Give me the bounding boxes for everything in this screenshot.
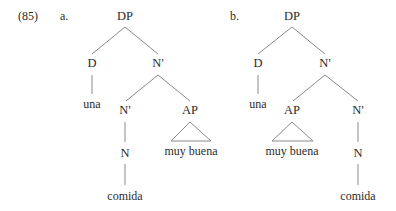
tree-a-label: a.: [60, 9, 68, 23]
tree-a-node-n: N: [120, 146, 129, 160]
tree-b-word-muy-buena: muy buena: [266, 144, 319, 158]
tree-b-node-n: N: [353, 146, 362, 160]
tree-b-node-d: D: [253, 56, 262, 70]
tree-a-node-dp: DP: [117, 9, 133, 23]
tree-a-node-nbar-low: N': [119, 103, 130, 117]
tree-a-node-d: D: [87, 56, 96, 70]
tree-b-node-nbar-top: N': [319, 56, 330, 70]
tree-b-node-ap: AP: [284, 103, 300, 117]
tree-b-branches: [258, 27, 358, 185]
tree-a-word-comida: comida: [107, 189, 142, 203]
tree-a-word-una: una: [83, 97, 100, 111]
tree-a-word-muy-buena: muy buena: [165, 144, 218, 158]
tree-b-word-comida: comida: [340, 189, 375, 203]
tree-b-node-dp: DP: [284, 9, 300, 23]
tree-a-node-nbar-top: N': [152, 56, 163, 70]
tree-a-node-ap: AP: [182, 103, 198, 117]
example-number: (85): [18, 9, 38, 23]
tree-b-node-nbar-low: N': [352, 103, 363, 117]
tree-b-word-una: una: [249, 97, 266, 111]
tree-b-label: b.: [230, 9, 239, 23]
